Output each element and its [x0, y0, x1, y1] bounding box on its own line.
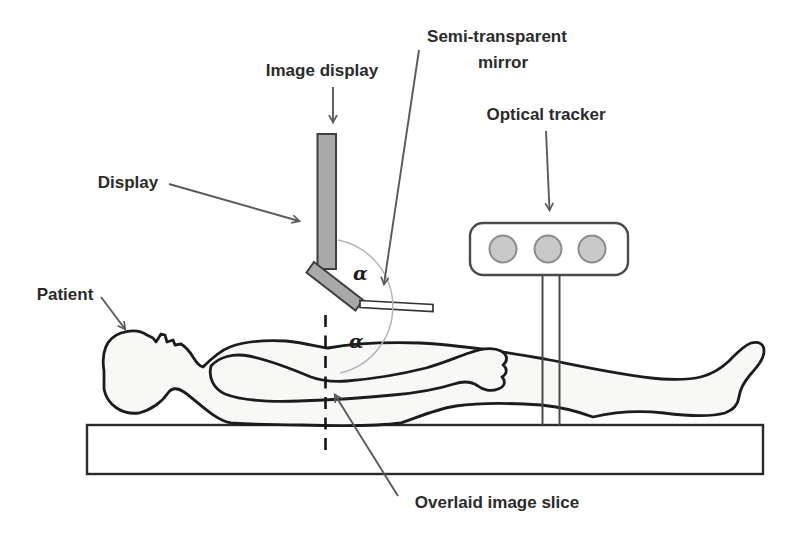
image-display-label: Image display [266, 61, 379, 80]
semi-transparent-mirror-glass [360, 301, 433, 312]
display-arrow [169, 184, 299, 221]
patient-label: Patient [37, 285, 94, 304]
optical-tracker-arrow [546, 131, 550, 210]
display-label: Display [98, 173, 159, 192]
mirror-arrow [384, 50, 419, 284]
tracker-camera-2 [535, 236, 562, 263]
patient-arrow [101, 297, 125, 329]
alpha-angle-upper: α [353, 262, 368, 284]
mirror-label-line2: mirror [478, 53, 528, 72]
patient-body [103, 331, 764, 426]
patient-table [87, 425, 763, 474]
image-display-bar [318, 134, 337, 269]
optical-tracker-label: Optical tracker [486, 105, 605, 124]
diagram-canvas: Image display Semi-transparent mirror Op… [0, 0, 798, 539]
display-mirror-assembly [307, 134, 434, 312]
mirror-label-line1: Semi-transparent [427, 27, 567, 46]
tracker-camera-3 [579, 236, 606, 263]
alpha-angle-lower: α [349, 330, 364, 352]
overlaid-image-slice-label: Overlaid image slice [415, 493, 579, 512]
tracker-camera-1 [490, 236, 517, 263]
